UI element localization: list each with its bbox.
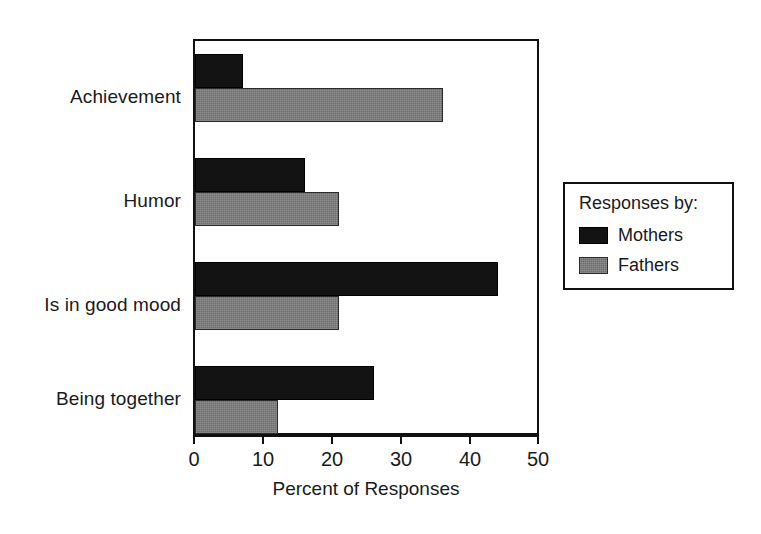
legend-entry-mothers: Mothers [579,225,683,246]
y-label-humor: Humor [0,190,181,212]
x-tick-40 [469,435,471,444]
x-ticklabel-0: 0 [169,448,219,471]
x-ticklabel-40: 40 [445,448,495,471]
bar-is-in-good-mood-fathers [195,296,339,330]
bars-layer [195,41,539,434]
legend-label-fathers: Fathers [618,255,679,276]
y-label-is-in-good-mood: Is in good mood [0,294,181,316]
bar-humor-fathers [195,192,339,226]
bar-chart-figure: Achievement Humor Is in good mood Being … [0,0,761,534]
bar-being-together-fathers [195,400,278,434]
legend-swatch-mothers [579,227,608,244]
x-axis-line [193,435,539,437]
legend-entry-fathers: Fathers [579,255,679,276]
legend-swatch-fathers [579,257,608,274]
x-tick-0 [193,435,195,444]
x-tick-30 [400,435,402,444]
legend-label-mothers: Mothers [618,225,683,246]
x-ticklabel-30: 30 [376,448,426,471]
y-label-achievement: Achievement [0,86,181,108]
x-tick-10 [262,435,264,444]
x-ticklabel-50: 50 [513,448,563,471]
x-ticklabel-20: 20 [307,448,357,471]
y-label-being-together: Being together [0,388,181,410]
bar-achievement-mothers [195,54,243,88]
x-tick-20 [331,435,333,444]
bar-is-in-good-mood-mothers [195,262,498,296]
bar-being-together-mothers [195,366,374,400]
x-ticklabel-10: 10 [238,448,288,471]
y-axis-category-labels: Achievement Humor Is in good mood Being … [0,0,183,534]
bar-achievement-fathers [195,88,443,122]
legend-title: Responses by: [579,193,698,214]
x-tick-50 [537,435,539,444]
x-axis-title: Percent of Responses [193,478,539,500]
legend: Responses by: Mothers Fathers [563,182,734,290]
bar-humor-mothers [195,158,305,192]
